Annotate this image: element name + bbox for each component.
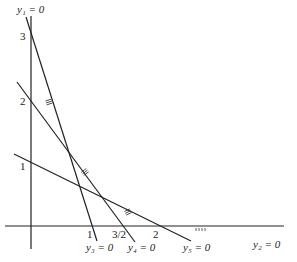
- hatch-marks: [46, 99, 205, 231]
- horizontal-tick-3-2: 3/2: [112, 228, 126, 240]
- vertical-tick-3: 3: [20, 30, 26, 42]
- vertical-tick-2: 2: [20, 95, 26, 107]
- line-y3: [26, 17, 97, 241]
- vertical-tick-1: 1: [20, 160, 26, 172]
- horizontal-tick-1: 1: [87, 228, 93, 240]
- constraint-diagram: y₁ = 0 y₂ = 0 3 2 1 1 3/2 2 y₃ = 0 y₄ = …: [0, 0, 297, 262]
- horizontal-tick-2: 2: [153, 228, 159, 240]
- line-y4-label: y₄ = 0: [127, 241, 156, 253]
- line-y4: [17, 82, 135, 242]
- horizontal-axis-label: y₂ = 0: [252, 238, 281, 250]
- line-y3-label: y₃ = 0: [85, 241, 114, 253]
- line-y5: [14, 154, 191, 241]
- line-y5-label: y₅ = 0: [182, 241, 211, 253]
- vertical-axis-label: y₁ = 0: [16, 3, 45, 15]
